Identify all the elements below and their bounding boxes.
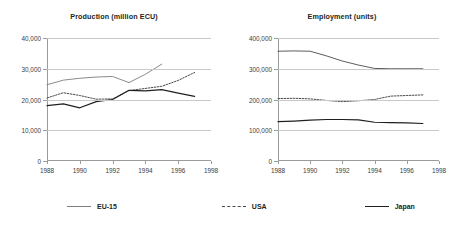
- y-axis-tick: [43, 130, 47, 131]
- y-axis-tick: [274, 38, 278, 39]
- x-axis-tick: [145, 161, 146, 164]
- chart-panel-employment: Employment (units) 0100,000200,000300,00…: [228, 0, 456, 185]
- x-axis-tick: [375, 161, 376, 164]
- y-axis-tick: [274, 100, 278, 101]
- gridline-y: [47, 130, 211, 131]
- x-axis-tick: [342, 161, 343, 164]
- legend-label-eu-15: EU-15: [97, 203, 117, 210]
- legend-label-usa: USA: [252, 203, 267, 210]
- x-axis-tick: [113, 161, 114, 164]
- series-line-eu-15: [47, 64, 162, 85]
- y-axis-label: 0: [37, 158, 41, 165]
- x-axis-tick: [80, 161, 81, 164]
- gridline-y: [47, 69, 211, 70]
- chart-title-production: Production (million ECU): [0, 12, 228, 21]
- y-axis-label: 0: [268, 158, 272, 165]
- legend-label-japan: Japan: [395, 203, 415, 210]
- x-axis-tick: [310, 161, 311, 164]
- legend-swatch-japan-icon: [365, 203, 389, 210]
- x-axis-label: 1994: [138, 167, 152, 174]
- chart-panel-production: Production (million ECU) 010,00020,00030…: [0, 0, 228, 185]
- x-axis-tick: [439, 161, 440, 164]
- gridline-y: [278, 69, 439, 70]
- y-axis-label: 100,000: [249, 127, 272, 134]
- y-axis-tick: [43, 38, 47, 39]
- plot-area-employment: 0100,000200,000300,000400,00019881990199…: [278, 38, 439, 161]
- x-axis-label: 1998: [204, 167, 218, 174]
- y-axis-label: 30,000: [21, 65, 41, 72]
- x-axis-tick: [47, 161, 48, 164]
- series-line-japan: [278, 119, 423, 123]
- gridline-y: [47, 100, 211, 101]
- x-axis-label: 1992: [335, 167, 349, 174]
- series-line-eu-15: [278, 51, 423, 69]
- legend-swatch-usa-icon: [222, 203, 246, 210]
- y-axis-label: 40,000: [21, 35, 41, 42]
- gridline-y: [278, 100, 439, 101]
- y-axis-tick: [43, 69, 47, 70]
- y-axis-label: 200,000: [249, 96, 272, 103]
- x-axis-tick: [178, 161, 179, 164]
- x-axis-label: 1992: [105, 167, 119, 174]
- chart-page: Production (million ECU) 010,00020,00030…: [0, 0, 456, 232]
- x-axis-label: 1988: [40, 167, 54, 174]
- legend-item-eu-15: EU-15: [67, 203, 117, 210]
- y-axis-label: 400,000: [249, 35, 272, 42]
- x-axis-label: 1998: [432, 167, 446, 174]
- legend-swatch-eu-15-icon: [67, 203, 91, 210]
- y-axis-tick: [274, 69, 278, 70]
- x-axis-label: 1990: [303, 167, 317, 174]
- chart-title-employment: Employment (units): [228, 12, 456, 21]
- y-axis-label: 300,000: [249, 65, 272, 72]
- x-axis-tick: [407, 161, 408, 164]
- y-axis-tick: [274, 130, 278, 131]
- gridline-y: [278, 130, 439, 131]
- gridline-y: [278, 38, 439, 39]
- legend-item-usa: USA: [222, 203, 267, 210]
- x-axis-label: 1996: [171, 167, 185, 174]
- x-axis-label: 1988: [271, 167, 285, 174]
- x-axis-label: 1990: [73, 167, 87, 174]
- x-axis-label: 1994: [367, 167, 381, 174]
- x-axis-tick: [211, 161, 212, 164]
- plot-area-production: 010,00020,00030,00040,000198819901992199…: [47, 38, 211, 161]
- chart-legend: EU-15 USA Japan: [0, 197, 456, 215]
- gridline-y: [47, 38, 211, 39]
- y-axis-label: 10,000: [21, 127, 41, 134]
- x-axis-tick: [278, 161, 279, 164]
- x-axis-label: 1996: [400, 167, 414, 174]
- series-line-usa: [278, 95, 423, 102]
- y-axis-label: 20,000: [21, 96, 41, 103]
- y-axis-tick: [43, 100, 47, 101]
- legend-item-japan: Japan: [365, 203, 415, 210]
